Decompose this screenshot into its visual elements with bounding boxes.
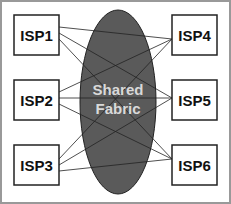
node-label: ISP6 [178, 157, 211, 174]
node-label: ISP3 [20, 157, 53, 174]
fabric-label-2: Fabric [95, 100, 140, 117]
node-isp4: ISP4 [172, 15, 217, 55]
node-label: ISP4 [178, 27, 211, 44]
node-isp2: ISP2 [14, 80, 59, 120]
node-label: ISP1 [20, 27, 53, 44]
fabric-label-1: Shared [93, 81, 144, 98]
node-isp3: ISP3 [14, 145, 59, 185]
node-label: ISP5 [178, 92, 211, 109]
diagram-canvas: Shared Fabric ISP1 ISP2 ISP3 ISP4 ISP5 I… [0, 0, 231, 204]
node-label: ISP2 [20, 92, 53, 109]
node-isp5: ISP5 [172, 80, 217, 120]
node-isp1: ISP1 [14, 15, 59, 55]
node-isp6: ISP6 [172, 145, 217, 185]
diagram: Shared Fabric ISP1 ISP2 ISP3 ISP4 ISP5 I… [0, 0, 231, 204]
